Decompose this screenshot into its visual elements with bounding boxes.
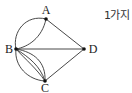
label-d: D [89,42,98,56]
edges [15,18,84,81]
edge-c-d [45,49,84,81]
edge-a-d [46,19,84,49]
answer-text: 1가지 [104,6,130,22]
edge-a-b-inner [16,19,46,49]
label-a: A [42,3,51,17]
node-a [44,17,48,21]
edge-a-b-outer [15,18,46,49]
node-d [82,47,86,51]
node-b [14,47,18,51]
label-b: B [5,42,13,56]
label-c: C [41,81,49,93]
